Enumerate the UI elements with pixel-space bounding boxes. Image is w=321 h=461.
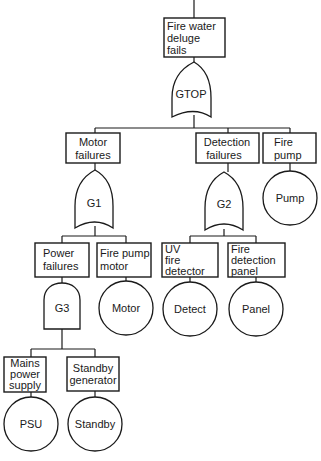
event-line: pump	[274, 149, 302, 161]
event-line: supply	[9, 379, 41, 391]
gate-label-g1: G1	[87, 197, 102, 209]
basic-event-panel: Panel	[229, 282, 283, 336]
event-power-failures: Power failures	[35, 243, 89, 277]
basic-event-label: Detect	[174, 303, 206, 315]
top-event-line-2: deluge	[167, 32, 200, 44]
top-event-line-3: fails	[167, 44, 187, 56]
basic-event-detect: Detect	[163, 282, 217, 336]
gate-gtop-or: GTOP	[172, 62, 211, 117]
event-line: Fire pump	[100, 247, 150, 259]
event-line: Fire	[274, 136, 293, 148]
event-line: Detection	[204, 136, 250, 148]
event-mains-power-supply: Mains power supply	[4, 357, 46, 392]
basic-event-motor: Motor	[99, 281, 153, 335]
basic-event-label: PSU	[20, 418, 43, 430]
basic-event-psu: PSU	[4, 397, 58, 451]
basic-event-label: Standby	[75, 418, 116, 430]
event-fire-detection-panel: Fire detection panel	[228, 243, 285, 277]
event-line: failures	[43, 260, 79, 272]
event-line: Motor	[79, 136, 107, 148]
event-line: failures	[75, 149, 111, 161]
gate-g1-or: G1	[75, 170, 113, 228]
top-event-box: Fire water deluge fails	[164, 18, 225, 57]
basic-event-label: Panel	[242, 303, 270, 315]
event-line: generator	[69, 374, 116, 386]
event-detection-failures: Detection failures	[196, 133, 259, 163]
event-line: motor	[100, 260, 128, 272]
event-motor-failures: Motor failures	[66, 133, 120, 163]
event-standby-generator: Standby generator	[67, 357, 119, 391]
gate-g3-and: G3	[44, 283, 80, 329]
gate-label-gtop: GTOP	[176, 88, 207, 100]
event-uv-fire-detector: UV fire detector	[162, 243, 218, 277]
event-line: detector	[165, 265, 205, 277]
basic-event-standby: Standby	[68, 397, 122, 451]
basic-event-label: Motor	[112, 302, 140, 314]
basic-event-label: Pump	[276, 192, 305, 204]
gate-label-g2: G2	[217, 198, 232, 210]
event-fire-pump-motor: Fire pump motor	[97, 243, 151, 277]
gate-g2-or: G2	[205, 172, 243, 230]
top-event-line-1: Fire water	[167, 20, 216, 32]
basic-event-pump: Pump	[263, 171, 317, 225]
gate-label-g3: G3	[55, 302, 70, 314]
event-line: Standby	[73, 362, 114, 374]
event-line: panel	[231, 265, 258, 277]
connector-lines	[31, 0, 290, 397]
event-line: Power	[43, 247, 75, 259]
fault-tree-diagram: Fire water deluge fails GTOP Motor failu…	[0, 0, 321, 461]
event-line: failures	[206, 149, 242, 161]
event-fire-pump: Fire pump	[263, 133, 316, 163]
